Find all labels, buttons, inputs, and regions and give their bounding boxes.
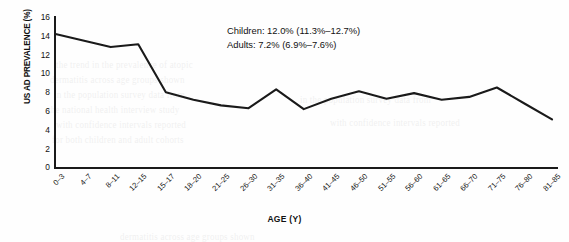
chart-figure: the trend in the prevalence of atopic de… bbox=[0, 0, 569, 242]
annotation-children: Children: 12.0% (11.3%–12.7%) bbox=[227, 24, 360, 38]
prevalence-annotation: Children: 12.0% (11.3%–12.7%) Adults: 7.… bbox=[227, 24, 360, 52]
annotation-adults: Adults: 7.2% (6.9%–7.6%) bbox=[227, 38, 360, 52]
